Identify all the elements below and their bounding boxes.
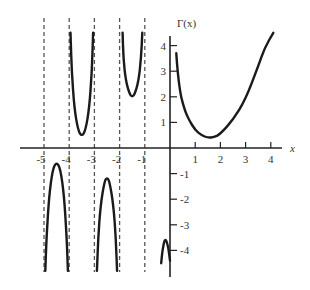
x-tick-label: -2 — [112, 153, 121, 165]
y-axis-label: Γ(x) — [177, 17, 197, 30]
x-tick-label: 4 — [268, 153, 274, 165]
y-tick-label: -2 — [180, 193, 189, 205]
gamma-curve-segment — [45, 164, 68, 271]
y-tick-label: 2 — [161, 91, 167, 103]
x-tick-label: -4 — [62, 153, 72, 165]
x-tick-label: 1 — [192, 153, 198, 165]
x-tick-label: -1 — [137, 153, 146, 165]
y-tick-label: 1 — [161, 116, 167, 128]
x-axis-label: x — [289, 142, 295, 154]
x-tick-label: -3 — [87, 153, 97, 165]
x-tick-label: 2 — [218, 153, 224, 165]
gamma-curve-segment — [97, 178, 117, 271]
y-tick-label: -1 — [180, 168, 189, 180]
gamma-curve-segment — [176, 33, 273, 138]
y-tick-label: 3 — [161, 65, 167, 77]
gamma-curve-segment — [123, 33, 143, 96]
gamma-curve-segment — [161, 240, 170, 263]
gamma-function-chart: -5-4-3-2-112344321-1-2-3-4Γ(x)x — [0, 0, 310, 290]
x-tick-label: 3 — [243, 153, 249, 165]
y-tick-label: -4 — [180, 244, 190, 256]
y-tick-label: 4 — [161, 40, 167, 52]
x-tick-label: -5 — [36, 153, 46, 165]
y-tick-label: -3 — [180, 219, 190, 231]
gamma-curve-segment — [71, 33, 94, 135]
